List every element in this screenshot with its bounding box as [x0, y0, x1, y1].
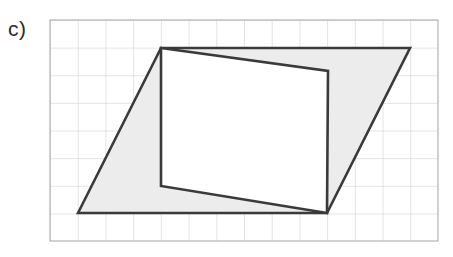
figure-container: c) [0, 0, 453, 257]
part-label-c: c) [8, 17, 27, 41]
inner-quadrilateral-shape [161, 48, 328, 213]
geometry-figure [0, 0, 453, 257]
